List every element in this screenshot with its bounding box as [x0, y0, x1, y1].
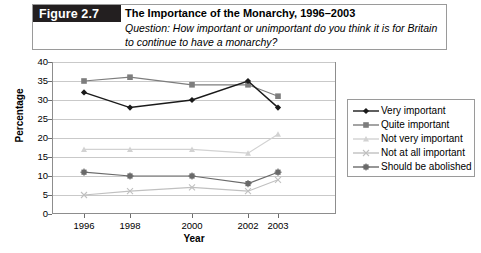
legend-marker-triangle-icon — [351, 132, 381, 146]
figure-header-box: Figure 2.7 The Importance of the Monarch… — [32, 4, 447, 50]
data-point-square — [363, 122, 369, 128]
x-axis-tick-mark — [84, 214, 85, 218]
data-point-asterisk-square — [80, 169, 87, 176]
x-axis-title: Year — [52, 233, 336, 244]
y-axis-tick-labels: 0510152025303540 — [22, 56, 48, 220]
y-axis-tick-mark — [48, 214, 52, 215]
y-axis-tick-label: 35 — [22, 76, 48, 86]
data-point-square — [189, 82, 195, 88]
legend-item: Not at all important — [351, 146, 471, 160]
figure-number-tag: Figure 2.7 — [33, 5, 121, 22]
legend-label: Quite important — [381, 118, 449, 132]
data-point-diamond — [189, 97, 195, 103]
legend-item: Very important — [351, 104, 471, 118]
y-axis-tick-label: 15 — [22, 152, 48, 162]
y-axis-tick-mark — [48, 62, 52, 63]
x-axis-tick-mark — [192, 214, 193, 218]
data-point-diamond — [127, 105, 133, 111]
data-point-diamond — [363, 108, 369, 114]
legend-label: Not at all important — [381, 146, 465, 160]
legend-item: Should be abolished — [351, 160, 471, 174]
y-axis-tick-mark — [48, 195, 52, 196]
y-axis-tick-label: 0 — [22, 209, 48, 219]
y-axis-tick-mark — [48, 176, 52, 177]
y-axis-tick-label: 25 — [22, 114, 48, 124]
y-axis-tick-label: 20 — [22, 133, 48, 143]
data-point-square — [127, 74, 133, 80]
y-axis-tick-label: 10 — [22, 171, 48, 181]
data-point-asterisk-square — [126, 172, 133, 179]
y-axis-title: Percentage — [14, 71, 25, 161]
data-point-square — [81, 78, 87, 84]
y-axis-tick-mark — [48, 157, 52, 158]
y-axis-tick-mark — [48, 119, 52, 120]
legend-marker-asterisk-square-icon — [351, 160, 381, 174]
chart-series-layer — [52, 62, 336, 214]
x-axis-tick-mark — [278, 214, 279, 218]
y-axis-tick-mark — [48, 81, 52, 82]
x-axis-tick-label: 2003 — [258, 220, 298, 231]
data-point-diamond — [81, 89, 87, 95]
x-axis-tick-label: 2000 — [172, 220, 212, 231]
legend-label: Not very important — [381, 132, 463, 146]
y-axis-tick-label: 5 — [22, 190, 48, 200]
y-axis-tick-mark — [48, 100, 52, 101]
legend-item: Quite important — [351, 118, 471, 132]
legend-label: Should be abolished — [381, 160, 472, 174]
data-point-cross — [275, 177, 281, 183]
data-point-asterisk-square — [274, 169, 281, 176]
x-axis-tick-mark — [248, 214, 249, 218]
y-axis-tick-label: 40 — [22, 57, 48, 67]
data-point-triangle — [275, 131, 281, 137]
x-axis-tick-label: 1998 — [110, 220, 150, 231]
figure-title: The Importance of the Monarchy, 1996–200… — [125, 6, 442, 21]
data-point-asterisk-square — [188, 172, 195, 179]
legend-marker-diamond-icon — [351, 104, 381, 118]
data-point-asterisk-square — [244, 180, 251, 187]
x-axis-tick-mark — [130, 214, 131, 218]
legend-marker-square-icon — [351, 118, 381, 132]
legend-label: Very important — [381, 104, 445, 118]
legend-marker-cross-icon — [351, 146, 381, 160]
x-axis-tick-label: 1996 — [64, 220, 104, 231]
figure-question: Question: How important or unimportant d… — [125, 22, 440, 49]
y-axis-tick-mark — [48, 138, 52, 139]
legend-item: Not very important — [351, 132, 471, 146]
y-axis-tick-label: 30 — [22, 95, 48, 105]
data-point-asterisk-square — [362, 163, 369, 170]
chart-legend: Very importantQuite importantNot very im… — [347, 99, 475, 177]
series-line — [84, 134, 278, 153]
data-point-square — [275, 93, 281, 99]
